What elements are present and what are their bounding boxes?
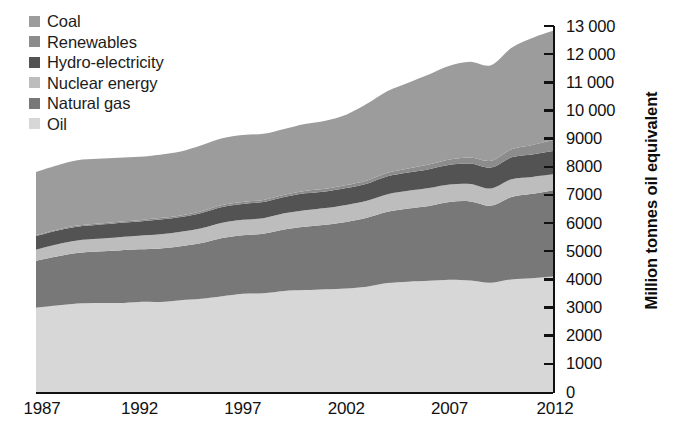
legend-item-hydro-electricity: Hydro-electricity	[29, 52, 164, 73]
y-tick-label: 9000	[566, 130, 602, 147]
y-tick-label: 12 000	[566, 46, 615, 63]
y-axis-title-text: Million tonnes oil equivalent	[642, 91, 661, 309]
x-tick-label: 2007	[420, 399, 480, 419]
legend-item-coal: Coal	[29, 11, 164, 32]
y-tick-label: 2000	[566, 327, 602, 344]
y-tick-label: 11 000	[566, 74, 614, 91]
chart-legend: Coal Renewables Hydro-electricity Nuclea…	[29, 11, 164, 134]
y-tick-label: 3000	[566, 299, 602, 316]
x-tick-label: 1987	[12, 399, 72, 419]
energy-consumption-chart: Coal Renewables Hydro-electricity Nuclea…	[0, 0, 685, 435]
x-tick-label: 1992	[109, 399, 169, 419]
y-tick-label: 5000	[566, 243, 602, 260]
legend-swatch-oil	[29, 118, 40, 129]
y-tick-label: 4000	[566, 271, 602, 288]
legend-item-oil: Oil	[29, 114, 164, 135]
x-axis-tick-labels: 198719921997200220072012	[0, 399, 685, 429]
x-tick-label: 2012	[525, 399, 585, 419]
legend-swatch-renewables	[29, 36, 40, 47]
y-tick-label: 7000	[566, 186, 602, 203]
y-tick-label: 1000	[566, 355, 602, 372]
legend-label-oil: Oil	[47, 115, 67, 133]
legend-item-nuclear-energy: Nuclear energy	[29, 73, 164, 94]
legend-swatch-nuclear-energy	[29, 77, 40, 88]
y-tick-label: 0	[566, 384, 575, 401]
legend-label-hydro-electricity: Hydro-electricity	[47, 53, 164, 71]
y-tick-label: 8000	[566, 158, 602, 175]
legend-swatch-hydro-electricity	[29, 57, 40, 68]
legend-label-coal: Coal	[47, 12, 81, 30]
y-tick-label: 6000	[566, 215, 602, 232]
legend-swatch-coal	[29, 16, 40, 27]
legend-label-nuclear-energy: Nuclear energy	[47, 74, 158, 92]
x-tick-label: 2002	[316, 399, 376, 419]
legend-label-natural-gas: Natural gas	[47, 94, 130, 112]
legend-swatch-natural-gas	[29, 98, 40, 109]
y-tick-label: 13 000	[566, 18, 615, 35]
y-axis-title: Million tonnes oil equivalent	[636, 0, 666, 400]
legend-item-natural-gas: Natural gas	[29, 93, 164, 114]
x-tick-label: 1997	[213, 399, 273, 419]
legend-label-renewables: Renewables	[47, 33, 137, 51]
legend-item-renewables: Renewables	[29, 32, 164, 53]
y-tick-label: 10 000	[566, 102, 615, 119]
